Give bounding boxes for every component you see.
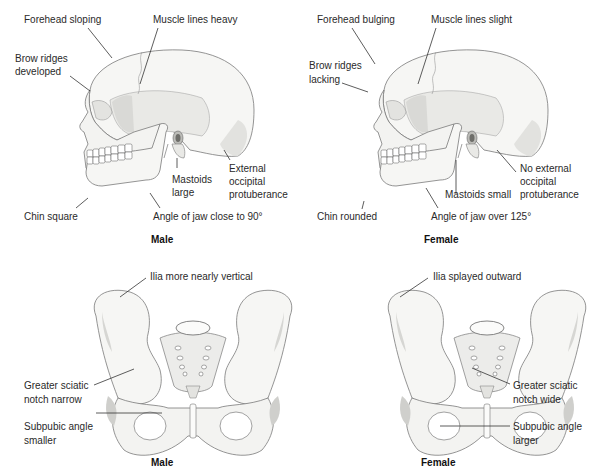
label-no-occipital-line1: No external xyxy=(520,162,571,175)
label-occipital-line3: protuberance xyxy=(229,188,288,201)
label-occipital-line2: occipital xyxy=(229,175,265,188)
label-subpubic-smaller-line1: Subpubic angle xyxy=(24,420,93,433)
label-sciatic-narrow-line2: notch narrow xyxy=(24,393,82,406)
label-chin-rounded: Chin rounded xyxy=(317,210,377,223)
label-ilia-vertical: Ilia more nearly vertical xyxy=(150,270,253,283)
label-sciatic-narrow-line1: Greater sciatic xyxy=(24,379,88,392)
label-no-occipital-line3: protuberance xyxy=(520,188,579,201)
label-mastoids-line1: Mastoids xyxy=(172,173,212,186)
label-no-occipital-line2: occipital xyxy=(520,175,556,188)
label-muscle-lines-heavy: Muscle lines heavy xyxy=(153,13,237,26)
label-subpubic-larger-line2: larger xyxy=(513,434,539,447)
label-sciatic-wide-line2: notch wide xyxy=(513,393,561,406)
label-mastoids-small: Mastoids small xyxy=(445,188,511,201)
caption-female-skull: Female xyxy=(424,234,458,245)
label-ilia-splayed: Ilia splayed outward xyxy=(433,270,521,283)
caption-female-pelvis: Female xyxy=(421,457,455,468)
caption-male-pelvis: Male xyxy=(151,457,173,468)
label-brow-ridges-line1: Brow ridges xyxy=(15,52,68,65)
label-chin-square: Chin square xyxy=(24,210,78,223)
label-brow-ridges-line2: developed xyxy=(15,65,61,78)
label-forehead-bulging: Forehead bulging xyxy=(317,13,395,26)
label-brow-ridges-line1: Brow ridges xyxy=(309,59,362,72)
label-sciatic-wide-line1: Greater sciatic xyxy=(513,379,577,392)
label-jaw-angle-male: Angle of jaw close to 90° xyxy=(153,210,263,223)
label-brow-ridges-line2: lacking xyxy=(309,73,340,86)
label-muscle-lines-slight: Muscle lines slight xyxy=(431,13,512,26)
label-jaw-angle-female: Angle of jaw over 125° xyxy=(431,210,531,223)
label-occipital-line1: External xyxy=(229,162,266,175)
label-subpubic-smaller-line2: smaller xyxy=(24,434,56,447)
caption-male-skull: Male xyxy=(151,234,173,245)
label-subpubic-larger-line1: Subpubic angle xyxy=(513,420,582,433)
label-forehead-sloping: Forehead sloping xyxy=(24,13,101,26)
label-mastoids-line2: large xyxy=(172,186,194,199)
